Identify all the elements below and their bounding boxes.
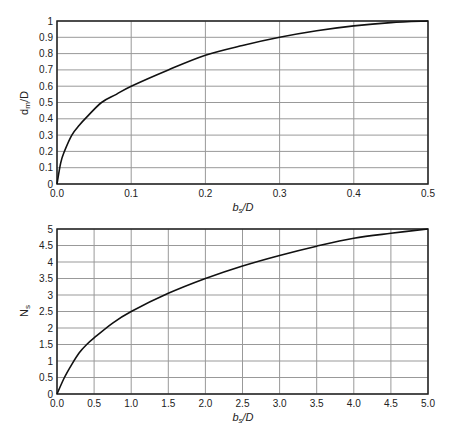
y-tick-label: 0.8 [39,48,53,59]
y-tick-label: 1 [47,16,53,27]
y-tick-label: 0.6 [39,81,53,92]
y-tick-label: 0.4 [39,113,53,124]
figure-canvas: 00.10.20.30.40.50.60.70.80.910.00.10.20.… [0,0,453,446]
x-tick-label: 0.0 [50,398,64,409]
y-tick-label: 0.3 [39,130,53,141]
x-tick-label: 1.0 [124,398,138,409]
x-tick-label: 0.5 [421,188,435,199]
x-tick-label: 3.0 [273,398,287,409]
x-tick-label: 0.3 [273,188,287,199]
y-tick-label: 4 [47,257,53,268]
x-tick-label: 5.0 [421,398,435,409]
y-tick-label: 1.5 [39,339,53,350]
y-tick-label: 0.7 [39,64,53,75]
x-tick-label: 3.5 [310,398,324,409]
y-tick-label: 1 [47,356,53,367]
y-tick-label: 2.5 [39,306,53,317]
chart0-ylabel: dm/D [18,91,32,115]
y-tick-label: 0.1 [39,162,53,173]
y-tick-label: 0.5 [39,372,53,383]
x-tick-label: 2.5 [236,398,250,409]
x-tick-label: 0.2 [198,188,212,199]
x-tick-label: 1.5 [161,398,175,409]
x-tick-label: 2.0 [198,398,212,409]
y-tick-label: 3 [47,290,53,301]
x-tick-label: 0.4 [347,188,361,199]
x-tick-label: 4.0 [347,398,361,409]
chart-dm-vs-bs: 00.10.20.30.40.50.60.70.80.910.00.10.20.… [39,16,435,200]
x-tick-label: 4.5 [384,398,398,409]
chart1-ylabel: Ns [18,305,32,317]
x-tick-label: 0.0 [50,188,64,199]
y-tick-label: 0.2 [39,146,53,157]
x-tick-label: 0.5 [87,398,101,409]
y-tick-label: 4.5 [39,240,53,251]
y-tick-label: 3.5 [39,273,53,284]
chart0-xlabel: bs/D [232,201,253,215]
chart-ns-vs-bs: 00.511.522.533.544.550.00.51.01.52.02.53… [39,224,435,410]
y-tick-label: 5 [47,224,53,235]
chart1-xlabel: bs/D [232,411,253,425]
y-tick-label: 0.5 [39,97,53,108]
x-tick-label: 0.1 [124,188,138,199]
y-tick-label: 0.9 [39,32,53,43]
y-tick-label: 2 [47,323,53,334]
